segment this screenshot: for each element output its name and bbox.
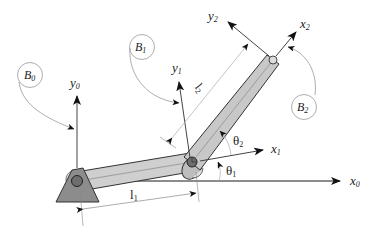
y1-label: y1 [170, 60, 182, 76]
y2-axis [228, 22, 269, 56]
joint-1 [72, 176, 83, 187]
b0-label: B0 [24, 68, 35, 83]
y2-label: y2 [206, 8, 218, 24]
manipulator-diagram: y0 x0 y1 x1 y2 x2 l1 [0, 0, 378, 233]
x2-axis [276, 32, 296, 56]
theta1-label: θ1 [226, 163, 236, 179]
x2-label: x2 [299, 16, 310, 32]
b1-label: B1 [135, 40, 146, 55]
link-2-end-joint [269, 56, 277, 64]
joint-2 [187, 157, 197, 167]
b2-label: B2 [297, 100, 308, 115]
y0-label: y0 [68, 75, 80, 91]
l2-label: l2 [191, 81, 207, 96]
link-2 [184, 55, 279, 170]
x1-label: x1 [270, 141, 281, 157]
theta1-arc [218, 162, 220, 181]
l1-label: l1 [130, 187, 138, 203]
theta2-label: θ2 [233, 133, 243, 149]
x0-label: x0 [349, 173, 360, 189]
y1-axis [179, 82, 190, 158]
